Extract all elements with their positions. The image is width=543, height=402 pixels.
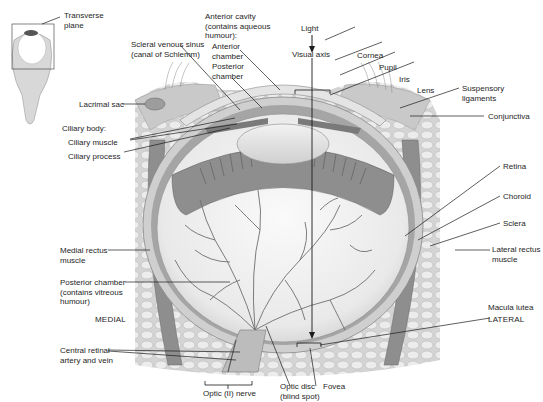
label-visual-axis: Visual axis (292, 50, 330, 60)
label-light: Light (301, 24, 318, 34)
label-lens: Lens (417, 86, 434, 96)
label-retina: Retina (503, 162, 526, 172)
lens-shape (237, 124, 329, 164)
label-ciliary-process: Ciliary process (68, 152, 120, 162)
label-central-retinal-artery-vein: Central retinal artery and vein (60, 346, 113, 365)
inset-thumbnail (12, 17, 60, 124)
label-fovea: Fovea (323, 382, 345, 392)
label-cornea: Cornea (357, 51, 383, 61)
label-optic-disc: Optic disc (blind spot) (280, 382, 320, 401)
label-transverse-plane: Transverse plane (64, 11, 104, 30)
label-conjunctiva: Conjunctiva (488, 112, 530, 122)
label-choroid: Choroid (503, 192, 531, 202)
label-lateral-rectus-muscle: Lateral rectus muscle (492, 245, 540, 264)
label-suspensory-ligaments: Suspensory ligaments (462, 84, 504, 103)
label-anterior-chamber: Anterior chamber (212, 42, 243, 61)
label-medial-rectus-muscle: Medial rectus muscle (60, 246, 108, 265)
label-anterior-cavity: Anterior cavity (contains aqueous humour… (205, 12, 270, 41)
label-lacrimal-sac: Lacrimal sac (79, 100, 124, 110)
label-ciliary-muscle: Ciliary muscle (68, 138, 118, 148)
label-lateral: LATERAL (488, 315, 524, 325)
label-macula-lutea: Macula lutea (488, 303, 533, 313)
label-optic-nerve: Optic (II) nerve (203, 389, 256, 399)
eye-illustration (0, 0, 543, 402)
eye-anatomy-diagram: Transverse plane Scleral venous sinus (c… (0, 0, 543, 402)
label-posterior-chamber-anterior: Posterior chamber (212, 62, 244, 81)
label-sclera: Sclera (503, 219, 526, 229)
label-posterior-chamber-vitreous: Posterior chamber (contains vitreous hum… (60, 278, 125, 307)
label-pupil: Pupil (379, 63, 397, 73)
label-iris: Iris (399, 75, 410, 85)
label-ciliary-body: Ciliary body: (62, 124, 106, 134)
label-scleral-venous-sinus: Scleral venous sinus (canal of Schlemm) (131, 40, 204, 59)
label-medial: MEDIAL (95, 315, 126, 325)
